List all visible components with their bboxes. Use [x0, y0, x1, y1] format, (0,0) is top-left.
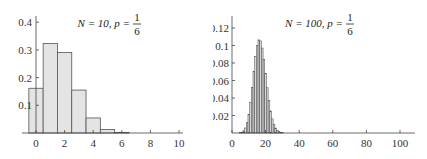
bar [273, 124, 275, 133]
bar [266, 88, 268, 133]
y-tick-label: 0.3 [18, 44, 32, 56]
svg-text:N = 10, p =: N = 10, p = [77, 17, 130, 29]
bar [245, 128, 247, 133]
chart-title: N = 100, p =16 [284, 11, 354, 37]
svg-text:1: 1 [347, 11, 353, 23]
bar [263, 60, 265, 133]
x-tick-label: 60 [327, 137, 339, 149]
bar [271, 119, 273, 133]
x-tick-label: 20 [260, 137, 272, 149]
y-tick-label: 0.12 [213, 22, 229, 34]
x-tick-label: 4 [90, 137, 96, 149]
bar [57, 52, 71, 133]
svg-text:6: 6 [134, 25, 140, 37]
x-tick-label: 2 [62, 137, 68, 149]
bar [255, 57, 257, 133]
y-tick-label: 0.08 [213, 57, 230, 69]
bar [277, 130, 279, 133]
x-tick-label: 10 [174, 137, 186, 149]
x-tick-label: 80 [361, 137, 373, 149]
bar [258, 40, 260, 133]
y-tick-label: 0.2 [18, 72, 32, 84]
x-tick-label: 0 [33, 137, 39, 149]
x-tick-label: 0 [229, 137, 235, 149]
x-tick-label: 100 [392, 137, 409, 149]
y-tick-label: 0.06 [213, 75, 230, 87]
x-tick-label: 8 [148, 137, 154, 149]
bars [29, 44, 129, 133]
y-tick-label: 0.4 [18, 16, 32, 28]
bar [253, 71, 255, 133]
svg-text:6: 6 [347, 25, 353, 37]
svg-text:1: 1 [134, 11, 140, 23]
svg-text:N = 100, p =: N = 100, p = [284, 17, 343, 29]
bar [250, 102, 252, 133]
bar [43, 44, 57, 133]
chart-binomial-n10: 02468100.10.20.30.4N = 10, p =16 [0, 0, 213, 159]
bar [248, 114, 250, 133]
bar [265, 74, 267, 133]
y-tick-label: 0.1 [18, 99, 32, 111]
chart-title: N = 10, p =16 [77, 11, 141, 37]
bar [270, 111, 272, 133]
bar [246, 123, 248, 133]
x-tick-label: 40 [294, 137, 306, 149]
chart-binomial-n100: 0204060801000.020.040.060.080.10.12N = 1… [213, 0, 427, 159]
bar [261, 48, 263, 133]
bars [240, 40, 284, 133]
bar [268, 101, 270, 133]
bar [251, 88, 253, 133]
bar [72, 90, 86, 133]
y-tick-label: 0.02 [213, 110, 229, 122]
y-tick-label: 0.04 [213, 92, 230, 104]
bar [100, 129, 114, 133]
y-tick-label: 0.1 [215, 40, 229, 52]
bar [260, 41, 262, 133]
bar [256, 45, 258, 133]
x-tick-label: 6 [119, 137, 125, 149]
bar [275, 128, 277, 133]
